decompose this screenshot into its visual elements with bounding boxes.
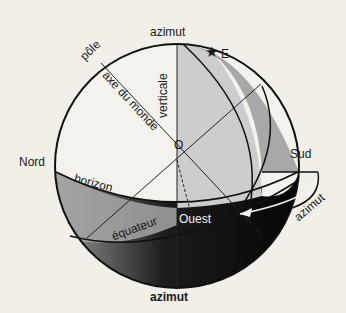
south-label: Sud [290,148,311,160]
north-label: Nord [19,156,45,168]
vertical-label: verticale [157,73,169,118]
star-icon: ★ [205,44,218,59]
caption-azimut: azimut [150,291,188,303]
west-label: Ouest [179,213,211,225]
origin-label: O [174,139,183,151]
azimut-top-label: azimut [150,26,185,38]
star-label: E [221,48,229,60]
